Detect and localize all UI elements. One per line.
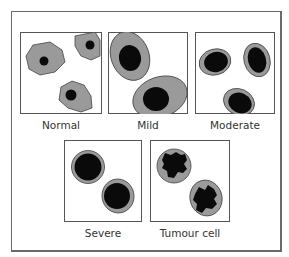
label-severe: Severe: [64, 227, 142, 239]
severe-cell: [72, 151, 105, 184]
label-tumour: Tumour cell: [150, 227, 230, 239]
label-mild: Mild: [108, 119, 188, 131]
label-moderate: Moderate: [195, 119, 275, 131]
tumour-cell: [157, 149, 191, 183]
panel-tumour: [150, 140, 230, 222]
panel-mild: [108, 32, 188, 114]
panel-moderate: [195, 32, 275, 114]
panel-normal: [20, 32, 102, 114]
panel-severe: [64, 140, 142, 222]
label-normal: Normal: [20, 119, 102, 131]
